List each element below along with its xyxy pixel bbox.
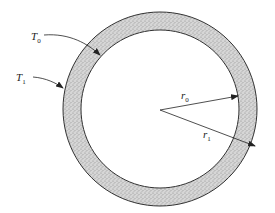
t1-leader-arrow — [33, 77, 63, 88]
label-r0: r0 — [181, 90, 189, 104]
annulus-diagram — [0, 0, 275, 213]
label-t1: T1 — [16, 72, 26, 86]
r0-radius-arrow — [160, 96, 238, 110]
label-t0: T0 — [31, 31, 41, 45]
annulus-ring — [63, 12, 257, 206]
label-r1: r1 — [203, 129, 211, 143]
